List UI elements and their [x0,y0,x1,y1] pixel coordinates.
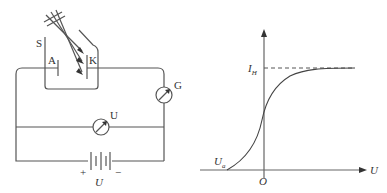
battery-minus-label: − [115,166,121,178]
tube-label: S [36,37,42,49]
origin-label: O [259,175,267,187]
saturation-current-label: IH [247,62,258,77]
galvanometer-icon [156,87,172,103]
x-axis-arrow-icon [359,167,367,173]
photoelectric-circuit: G U + − U S A K [16,10,182,188]
stopping-voltage-label: Ua [214,155,226,170]
voltmeter-label: U [110,109,118,121]
battery-icon [91,152,110,170]
battery-plus-label: + [80,166,86,178]
y-axis-arrow-icon [261,29,267,37]
iu-curve [227,68,355,170]
wire-top-left [16,68,88,161]
voltmeter-icon [93,119,109,135]
x-axis-label: U [370,164,379,176]
anode-label: A [48,54,56,66]
iu-graph: IH U O Ua [200,29,379,187]
galvanometer-label: G [174,79,182,91]
photoelectric-figure: G U + − U S A K [0,0,387,193]
battery-voltage-label: U [95,176,104,188]
cathode-label: K [89,54,97,66]
